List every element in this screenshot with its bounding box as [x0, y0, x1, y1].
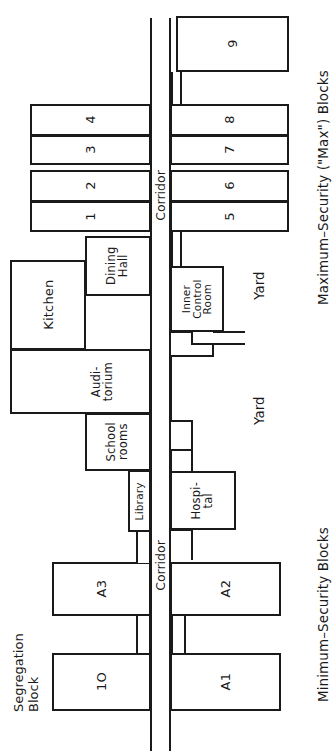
block-6: 6	[170, 170, 289, 202]
block-8-label: 8	[223, 116, 236, 124]
hospital: Hospi-tal	[170, 471, 236, 530]
block-2: 2	[30, 170, 151, 202]
block-4-label: 4	[84, 116, 97, 124]
block-2-label: 2	[84, 182, 97, 190]
caption-max-security: Maximum–Security ("Max") Blocks	[316, 70, 331, 305]
block-4: 4	[30, 104, 151, 136]
corridor-label-lower: Corridor	[153, 540, 168, 591]
block-7: 7	[170, 135, 289, 165]
block-9: 9	[176, 16, 289, 72]
block-10-label: 1O	[95, 673, 108, 692]
hospital-label: Hospi-tal	[191, 482, 214, 520]
library-label: Library	[134, 482, 145, 520]
block-3-label: 3	[84, 146, 97, 154]
prison-floor-plan: Corridor Corridor 9 4 3 2 1 8 7 6 5 Dini…	[0, 0, 335, 751]
yard-lower-label: Yard	[252, 396, 267, 425]
yard-upper-label: Yard	[252, 271, 267, 300]
block-a3: A3	[52, 562, 151, 616]
school-rooms: Schoolrooms	[85, 413, 151, 471]
auditorium-label: Audi-torium	[91, 362, 114, 401]
block-10: 1O	[52, 653, 151, 711]
block-a1: A1	[170, 653, 281, 711]
caption-segregation-line1: Segregation	[12, 633, 27, 712]
caption-segregation-block: Segregation Block	[12, 633, 41, 712]
block-a1-label: A1	[219, 673, 232, 691]
block-5: 5	[170, 201, 289, 232]
block-5-label: 5	[223, 212, 236, 220]
inner-control-room-connector	[171, 232, 182, 266]
yard-step-wall-upper	[171, 332, 213, 356]
block-1-label: 1	[84, 212, 97, 220]
caption-segregation-line2: Block	[27, 633, 42, 712]
block-3: 3	[30, 135, 151, 165]
corridor-label-upper-wrap: Corridor	[150, 150, 171, 240]
block-a2-connector	[171, 616, 186, 654]
block-a2: A2	[170, 562, 281, 616]
block-1: 1	[30, 201, 151, 232]
school-rooms-label: Schoolrooms	[106, 422, 129, 461]
auditorium: Audi-torium	[10, 349, 151, 414]
dining-hall: DiningHall	[85, 236, 151, 296]
library: Library	[128, 470, 151, 532]
caption-min-security: Minimum–Security Blocks	[316, 527, 331, 702]
inner-control-room: InnerControlRoom	[170, 266, 224, 332]
inner-control-room-label: InnerControlRoom	[181, 279, 213, 318]
kitchen-label: Kitchen	[41, 280, 54, 330]
block-9-connector	[171, 72, 182, 106]
corridor-label-upper: Corridor	[153, 170, 168, 221]
block-a3-upper-connector	[136, 532, 151, 563]
block-7-label: 7	[223, 146, 236, 154]
kitchen: Kitchen	[10, 260, 86, 350]
corridor-label-lower-wrap: Corridor	[150, 520, 171, 610]
block-6-label: 6	[223, 182, 236, 190]
yard-wall-below-hospital	[171, 530, 192, 560]
block-8: 8	[170, 104, 289, 136]
corridor-spine	[150, 18, 171, 751]
yard-step-wall-lower	[171, 356, 192, 450]
block-a3-connector	[136, 616, 151, 654]
block-a3-label: A3	[95, 580, 108, 598]
block-a2-label: A2	[219, 580, 232, 598]
block-9-label: 9	[226, 40, 239, 48]
dining-hall-label: DiningHall	[106, 247, 129, 285]
